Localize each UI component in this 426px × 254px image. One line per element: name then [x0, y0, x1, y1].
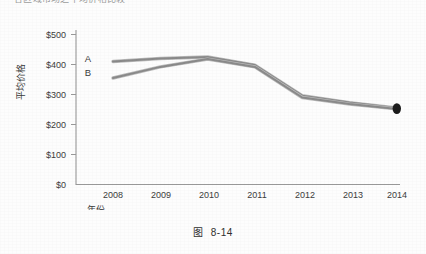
y-tick-label-500: $500 [46, 30, 66, 40]
x-axis-title: 年份 [87, 204, 105, 210]
chart-svg: 平均价格 $500 $400 $300 $200 $100 $0 2008 20… [0, 10, 426, 210]
y-tick-label-300: $300 [46, 90, 66, 100]
scanned-page: 各区域市场之平均价格比较 平均价格 $500 $400 $300 $200 $1… [0, 0, 426, 254]
figure-caption: 图8-14 [0, 224, 426, 239]
series-a-line [113, 57, 397, 108]
y-axis-title: 平均价格 [15, 64, 26, 100]
endpoint-marker-icon [393, 103, 401, 114]
y-tick-label-100: $100 [46, 150, 66, 160]
series-label-b: B [85, 67, 91, 78]
x-tick-label-2013: 2013 [343, 190, 363, 200]
cut-off-heading: 各区域市场之平均价格比较 [14, 0, 264, 3]
x-tick-label-2010: 2010 [199, 190, 219, 200]
y-tick-label-400: $400 [46, 60, 66, 70]
x-tick-label-2009: 2009 [151, 190, 171, 200]
x-tick-label-2012: 2012 [295, 190, 315, 200]
caption-label: 图 [193, 227, 204, 238]
x-tick-label-2011: 2011 [247, 190, 266, 200]
series-label-a: A [85, 53, 92, 64]
y-tick-label-0: $0 [56, 180, 66, 190]
line-chart: 平均价格 $500 $400 $300 $200 $100 $0 2008 20… [0, 10, 426, 210]
x-tick-label-2014: 2014 [387, 190, 407, 200]
x-tick-label-2008: 2008 [103, 190, 123, 200]
y-tick-label-200: $200 [46, 120, 66, 130]
caption-number: 8-14 [211, 227, 233, 238]
